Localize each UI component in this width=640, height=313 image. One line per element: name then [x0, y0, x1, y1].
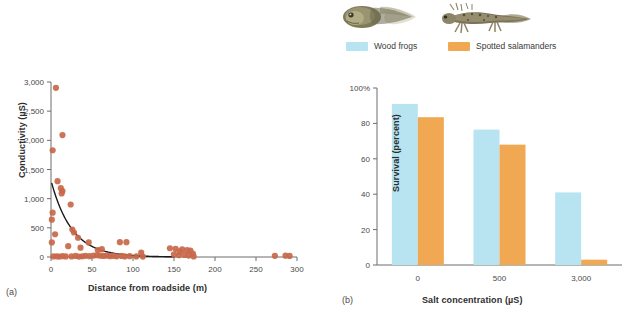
svg-text:80: 80: [361, 119, 370, 128]
svg-text:1,500: 1,500: [24, 166, 45, 175]
salamander-larva-illustration: [438, 2, 534, 38]
scatter-point: [86, 239, 92, 245]
scatter-points-group: [49, 85, 293, 260]
svg-text:3,000: 3,000: [571, 274, 592, 283]
scatter-point: [53, 85, 59, 91]
legend-label-spotted-salamanders: Spotted salamanders: [476, 41, 556, 51]
scatter-plot-svg: 05001,0001,5002,0002,5003,00005010015020…: [0, 0, 320, 313]
scatter-point: [50, 210, 56, 216]
svg-text:20: 20: [361, 226, 370, 235]
svg-text:40: 40: [361, 190, 370, 199]
scatter-point: [49, 217, 55, 223]
scatter-point: [71, 229, 77, 235]
scatter-point: [75, 235, 81, 241]
scatter-point: [176, 252, 182, 258]
svg-text:2,000: 2,000: [24, 136, 45, 145]
svg-text:1,000: 1,000: [24, 195, 45, 204]
legend-item-wood-frogs: Wood frogs: [346, 41, 417, 51]
bar-y-axis-title: Survival (percent): [391, 93, 401, 213]
scatter-point: [54, 178, 60, 184]
legend-swatch-spotted-salamanders: [448, 42, 470, 51]
scatter-point: [167, 245, 173, 251]
scatter-point: [272, 253, 278, 259]
svg-text:0: 0: [366, 261, 371, 270]
svg-text:60: 60: [361, 155, 370, 164]
scatter-point: [65, 243, 71, 249]
tadpole-illustration: [342, 2, 418, 36]
svg-text:500: 500: [31, 224, 45, 233]
scatter-point: [77, 245, 83, 251]
scatter-point: [117, 239, 123, 245]
svg-text:3,000: 3,000: [24, 78, 45, 87]
svg-text:0: 0: [40, 253, 45, 262]
svg-text:50: 50: [88, 265, 97, 274]
scatter-point: [63, 253, 69, 259]
scatter-point: [287, 253, 293, 259]
bar-wood-frogs: [555, 192, 581, 265]
bar-spotted-salamanders: [418, 117, 444, 265]
legend: Wood frogs Spotted salamanders: [320, 0, 640, 66]
svg-text:0: 0: [49, 265, 54, 274]
svg-text:300: 300: [290, 265, 304, 274]
bar-spotted-salamanders: [581, 260, 607, 265]
scatter-point: [191, 253, 197, 259]
bar-wood-frogs: [474, 130, 500, 265]
figure-container: 05001,0001,5002,0002,5003,00005010015020…: [0, 0, 640, 313]
legend-swatch-wood-frogs: [346, 42, 368, 51]
svg-text:200: 200: [208, 265, 222, 274]
scatter-point: [59, 132, 65, 138]
svg-text:100: 100: [126, 265, 140, 274]
scatter-point: [50, 147, 56, 153]
svg-text:150: 150: [167, 265, 181, 274]
scatter-point: [49, 239, 55, 245]
svg-text:0: 0: [416, 274, 421, 283]
svg-text:100%: 100%: [350, 84, 370, 93]
scatter-point: [123, 239, 129, 245]
legend-label-wood-frogs: Wood frogs: [374, 41, 417, 51]
bar-spotted-salamanders: [500, 145, 526, 265]
panel-a-label: (a): [6, 287, 17, 297]
svg-text:500: 500: [493, 274, 507, 283]
scatter-point: [133, 253, 139, 259]
bar-x-axis-title: Salt concentration (µS): [422, 295, 523, 305]
scatter-point: [59, 190, 65, 196]
svg-text:250: 250: [249, 265, 263, 274]
scatter-point: [68, 201, 74, 207]
legend-item-spotted-salamanders: Spotted salamanders: [448, 41, 556, 51]
scatter-point: [99, 246, 105, 252]
scatter-x-axis-title: Distance from roadside (m): [88, 283, 207, 293]
svg-text:2,500: 2,500: [24, 107, 45, 116]
panel-b-label: (b): [342, 295, 353, 305]
scatter-point: [140, 253, 146, 259]
panel-a-scatter-chart: 05001,0001,5002,0002,5003,00005010015020…: [0, 0, 320, 313]
scatter-y-axis-title: Conductivity (µS): [17, 80, 27, 200]
scatter-point: [52, 231, 58, 237]
scatter-point: [127, 253, 133, 259]
